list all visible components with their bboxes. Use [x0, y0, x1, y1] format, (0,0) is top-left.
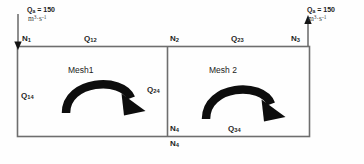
- pipe-label-q14: Q14: [21, 92, 34, 100]
- pipe-q14-subscript: 14: [27, 94, 33, 100]
- pipe-label-q12: Q12: [84, 35, 97, 43]
- diagram-artwork: [0, 0, 364, 164]
- node-label-n2: N2: [170, 35, 179, 43]
- node-label-n3: N3: [291, 35, 300, 43]
- diagram-canvas: Qa = 150 m3·s-1 Qa = 150 m3·s-1 N1 N2 N3…: [0, 0, 364, 164]
- pipe-q23-subscript: 23: [237, 37, 243, 43]
- node-n1-subscript: 1: [28, 37, 31, 43]
- node-label-n1: N1: [22, 35, 31, 43]
- mesh1-label: Mesh1: [68, 66, 94, 75]
- outflow-value: = 150: [317, 6, 335, 13]
- outflow-units-n3: m3·s-1: [308, 15, 326, 23]
- pipe-q24-subscript: 24: [153, 88, 159, 94]
- node-n4-inner-subscript: 4: [176, 127, 179, 133]
- outflow-units-exp2: -1: [322, 14, 327, 20]
- pipe-label-q24: Q24: [147, 86, 160, 94]
- node-n4-outer-subscript: 4: [176, 142, 179, 148]
- node-label-n4-outer: N4: [170, 140, 179, 148]
- pipe-q34-subscript: 34: [234, 127, 240, 133]
- mesh1-loop-arrow: [66, 84, 146, 115]
- node-label-n4-inner: N4: [170, 125, 179, 133]
- pipe-q12-subscript: 12: [90, 37, 96, 43]
- node-n3-subscript: 3: [297, 37, 300, 43]
- inflow-units-n1: m3·s-1: [28, 15, 46, 23]
- inflow-units-exp2: -1: [42, 14, 47, 20]
- mesh2-loop-arrow: [206, 90, 286, 122]
- node-n2-subscript: 2: [176, 37, 179, 43]
- pipe-label-q23: Q23: [231, 35, 244, 43]
- inflow-value: = 150: [37, 6, 55, 13]
- mesh2-label: Mesh 2: [209, 66, 237, 75]
- pipe-label-q34: Q34: [228, 125, 241, 133]
